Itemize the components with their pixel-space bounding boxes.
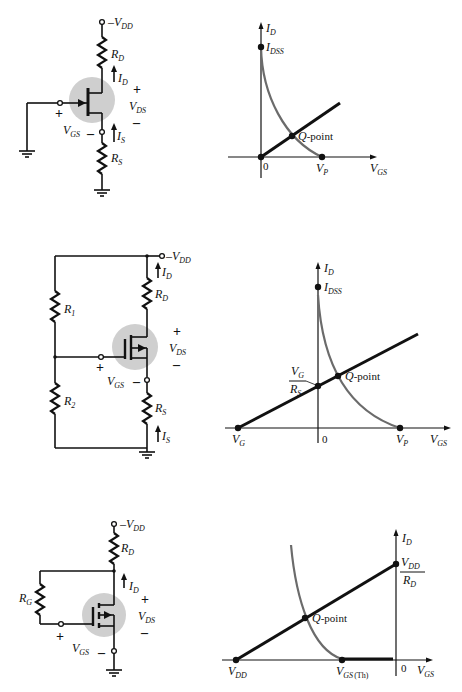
vgs-minus: – — [132, 374, 141, 389]
supply-label: –VDD — [165, 249, 191, 265]
device-highlight — [69, 77, 115, 123]
vds-plus: + — [133, 82, 141, 97]
vds-label: VDS — [129, 99, 146, 115]
vgs-plus: + — [56, 629, 64, 644]
vgs-minus: – — [97, 645, 106, 660]
supply-label: –VDD — [119, 517, 145, 533]
y-axis-label: ID — [401, 531, 412, 547]
svg-text:VG: VG — [291, 364, 304, 380]
transfer-graph-jfet-voltage-divider: ID VGS IDSS VG VG RS 0 VP Q-point — [225, 261, 451, 448]
vds-minus: – — [172, 357, 181, 372]
intercept-label: VDD RD — [400, 555, 425, 589]
q-point — [302, 615, 308, 621]
vgs-plus: + — [55, 106, 63, 121]
vdd-label: VDD — [228, 664, 247, 680]
source-resistor — [98, 143, 106, 174]
vgs-th-label: VGS(Th) — [336, 664, 369, 680]
intercept-point — [393, 561, 399, 567]
supply-terminal — [100, 20, 105, 25]
vgs-th-point — [339, 657, 345, 663]
drain-current-label: ID — [161, 265, 172, 281]
drain-resistor — [98, 37, 106, 68]
svg-text:VDD: VDD — [401, 555, 420, 571]
r2-label: R2 — [63, 394, 75, 410]
r1-label: R1 — [63, 302, 75, 318]
source-current-label: IS — [116, 129, 125, 145]
drain-resistor-label: RD — [110, 47, 124, 63]
gate-resistor-label: RG — [18, 591, 32, 607]
idss-label: IDSS — [265, 40, 284, 56]
idss-point — [315, 284, 321, 290]
x-axis-label: VGS — [370, 161, 387, 177]
gate-resistor — [36, 584, 44, 615]
drain-resistor-label: RD — [154, 287, 168, 303]
r2-resistor — [51, 383, 59, 414]
origin-label: 0 — [401, 662, 407, 674]
vp-point — [319, 154, 325, 160]
svg-text:RS: RS — [289, 382, 301, 398]
vgs-minus: – — [86, 126, 95, 141]
vdd-point — [233, 657, 239, 663]
drain-resistor — [110, 533, 118, 564]
vds-minus: – — [132, 115, 141, 130]
drain-resistor — [143, 278, 151, 309]
bias-line — [238, 334, 418, 428]
source-current-label: IS — [161, 429, 170, 445]
idss-point — [258, 44, 264, 50]
drain-resistor-label: RD — [120, 541, 134, 557]
q-point — [289, 133, 295, 139]
drain-current-label: ID — [128, 579, 139, 595]
vp-label: VP — [396, 432, 408, 448]
source-resistor-label: RS — [154, 401, 166, 417]
vgs-label: VGS — [107, 374, 124, 390]
r1-resistor — [51, 291, 59, 322]
origin-label: 0 — [263, 160, 269, 172]
vds-minus: – — [140, 625, 149, 640]
x-axis-label: VGS — [430, 432, 447, 448]
circuit-jfet-self-bias: –VDD RD ID + VGS – IS RS — [19, 15, 146, 196]
vds-plus: + — [141, 592, 149, 607]
y-axis-label: ID — [323, 261, 334, 277]
q-point-label: Q-point — [345, 369, 380, 383]
vds-label: VDS — [169, 341, 186, 357]
transfer-graph-jfet-self-bias: ID VGS IDSS 0 VP Q-point — [228, 21, 387, 178]
supply-label: –VDD — [107, 15, 133, 31]
drain-current-label: ID — [117, 71, 128, 87]
supply-terminal — [112, 522, 117, 527]
vds-plus: + — [173, 324, 181, 339]
q-point-label: Q-point — [312, 611, 347, 625]
x-axis-label: VGS — [417, 663, 434, 679]
source-resistor — [143, 393, 151, 424]
transfer-curve — [318, 295, 400, 428]
vds-label: VDS — [138, 609, 155, 625]
vgs-plus: + — [96, 360, 104, 375]
intercept-point — [315, 383, 321, 389]
transfer-graph-mosfet-feedback-bias: ID VGS VDD RD VDD VGS(Th) 0 Q-point — [222, 529, 434, 680]
circuit-mosfet-feedback-bias: –VDD RD RG ID + VGS – + VDS — [18, 517, 155, 676]
bias-configurations-figure: –VDD RD ID + VGS – IS RS — [0, 0, 462, 692]
q-point — [335, 373, 341, 379]
vg-point — [235, 425, 241, 431]
vp-point — [397, 425, 403, 431]
vgs-label: VGS — [63, 123, 80, 139]
vp-label: VP — [316, 161, 328, 177]
origin-label: 0 — [322, 433, 328, 445]
vgs-label: VGS — [72, 641, 89, 657]
circuit-jfet-voltage-divider: –VDD R1 R2 ID RD + VGS – + VD — [51, 249, 191, 458]
supply-terminal — [160, 254, 165, 259]
idss-label: IDSS — [323, 280, 342, 296]
source-resistor-label: RS — [110, 151, 122, 167]
y-axis-label: ID — [265, 21, 276, 37]
vg-label: VG — [232, 432, 245, 448]
device-highlight — [112, 324, 158, 370]
svg-text:RD: RD — [402, 573, 416, 589]
q-point-label: Q-point — [298, 129, 333, 143]
